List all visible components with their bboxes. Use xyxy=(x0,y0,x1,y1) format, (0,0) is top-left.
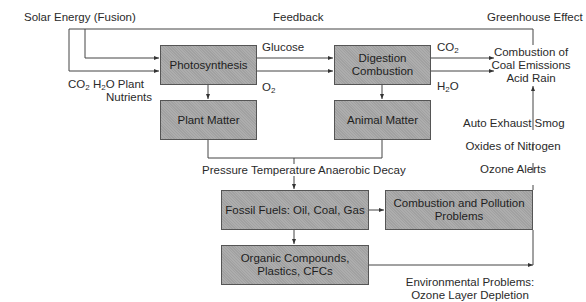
combustion-pollution-box: Combustion and Pollution Problems xyxy=(385,190,533,230)
environmental-problems-label: Environmental Problems: Ozone Layer Depl… xyxy=(390,276,550,302)
o2-label: O2 xyxy=(262,81,275,94)
plant-matter-label: Plant Matter xyxy=(178,114,240,127)
photosynthesis-label: Photosynthesis xyxy=(170,59,248,72)
greenhouse-effect-label: Greenhouse Effect xyxy=(487,11,583,24)
ozone-alerts-label: Ozone Alerts xyxy=(463,163,563,176)
coal-emissions-label: Combustion of Coal Emissions Acid Rain xyxy=(491,46,571,85)
nutrients-label: Nutrients xyxy=(106,91,152,104)
decay-label: Pressure Temperature Anaerobic Decay xyxy=(202,164,406,177)
organic-line2: Plastics, CFCs xyxy=(257,265,332,278)
photosynthesis-box: Photosynthesis xyxy=(160,45,257,85)
h2o-output-label: H2O xyxy=(437,80,459,93)
organic-compounds-box: Organic Compounds, Plastics, CFCs xyxy=(221,245,369,285)
digestion-combustion-box: Digestion Combustion xyxy=(334,45,431,85)
combustion-label: Combustion xyxy=(352,65,413,78)
digestion-label: Digestion xyxy=(359,52,407,65)
inputs-label: CO2 H2O Plant xyxy=(68,78,144,91)
oxides-nitrogen-label: Oxides of Nitrogen xyxy=(463,140,563,153)
feedback-label: Feedback xyxy=(273,11,324,24)
plant-matter-box: Plant Matter xyxy=(160,100,257,140)
fossil-fuels-label: Fossil Fuels: Oil, Coal, Gas xyxy=(225,204,364,217)
fossil-fuels-box: Fossil Fuels: Oil, Coal, Gas xyxy=(221,190,369,230)
animal-matter-label: Animal Matter xyxy=(347,114,418,127)
solar-energy-label: Solar Energy (Fusion) xyxy=(24,11,136,24)
combustion-pollution-line2: Problems xyxy=(435,210,484,223)
combustion-pollution-line1: Combustion and Pollution xyxy=(393,197,524,210)
animal-matter-box: Animal Matter xyxy=(334,100,431,140)
organic-line1: Organic Compounds, xyxy=(241,252,350,265)
auto-exhaust-label: Auto Exhaust Smog xyxy=(463,117,563,130)
glucose-label: Glucose xyxy=(262,41,304,54)
co2-output-label: CO2 xyxy=(437,41,459,54)
